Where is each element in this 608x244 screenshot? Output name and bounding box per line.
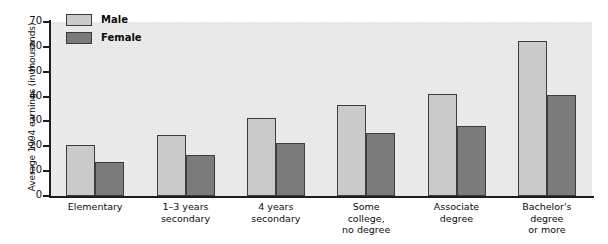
y-tick-30 <box>43 120 50 122</box>
legend-swatch-female <box>66 32 92 44</box>
y-tick-10 <box>43 170 50 172</box>
y-tick-70 <box>43 21 50 23</box>
y-tick-label-70: 70 <box>18 15 42 26</box>
y-tick-label-50: 50 <box>18 65 42 76</box>
bar-female-0 <box>95 162 124 196</box>
bar-female-1 <box>186 155 215 196</box>
y-tick-40 <box>43 96 50 98</box>
y-tick-label-0: 0 <box>18 189 42 200</box>
y-tick-0 <box>43 195 50 197</box>
x-label-4: Associatedegree <box>411 201 501 224</box>
bar-female-2 <box>276 143 305 196</box>
bar-male-0 <box>66 145 95 196</box>
legend-label-male: Male <box>101 14 128 25</box>
bar-male-5 <box>518 41 547 196</box>
y-tick-50 <box>43 71 50 73</box>
chart-legend: Male Female <box>66 12 142 48</box>
bar-male-2 <box>247 118 276 196</box>
y-tick-20 <box>43 145 50 147</box>
y-tick-label-40: 40 <box>18 90 42 101</box>
x-label-2: 4 yearssecondary <box>231 201 321 224</box>
bar-male-3 <box>337 105 366 196</box>
y-tick-label-30: 30 <box>18 114 42 125</box>
bar-female-3 <box>366 133 395 196</box>
x-axis-line <box>49 196 594 198</box>
bar-male-1 <box>157 135 186 196</box>
bar-female-4 <box>457 126 486 196</box>
x-label-5: Bachelor'sdegreeor more <box>502 201 592 236</box>
legend-item-male: Male <box>66 12 142 27</box>
x-label-3: Somecollege,no degree <box>321 201 411 236</box>
x-label-1: 1–3 yearssecondary <box>140 201 230 224</box>
y-tick-label-10: 10 <box>18 164 42 175</box>
bar-male-4 <box>428 94 457 196</box>
y-tick-label-20: 20 <box>18 139 42 150</box>
y-tick-label-60: 60 <box>18 40 42 51</box>
legend-swatch-male <box>66 14 92 26</box>
legend-item-female: Female <box>66 30 142 45</box>
bar-female-5 <box>547 95 576 196</box>
plot-area <box>50 22 592 196</box>
x-label-0: Elementary <box>50 201 140 213</box>
chart-container: Average 1994 earnings (in thousands) 010… <box>0 0 608 244</box>
y-tick-60 <box>43 46 50 48</box>
legend-label-female: Female <box>101 32 142 43</box>
